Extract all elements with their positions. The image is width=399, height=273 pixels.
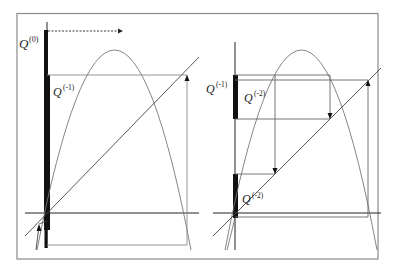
label-q-minus1-left-sup: (-1) <box>63 83 75 92</box>
label-q-minus2-lower-sup: (-2) <box>252 191 264 200</box>
left-parabola-curve <box>37 50 191 250</box>
label-q0-sup: (0) <box>29 35 39 44</box>
right-down-arrow-icon-2 <box>273 168 278 174</box>
left-interval-bar-lower <box>44 75 50 230</box>
left-interval-bar-upper <box>44 30 48 75</box>
left-panel: Q (0) Q (-1) <box>19 22 199 250</box>
label-q-minus2-upper: Q <box>244 91 253 105</box>
label-q0: Q <box>19 36 29 51</box>
label-q-minus2-upper-sup: (-2) <box>254 89 266 98</box>
label-q-minus1-left: Q <box>53 85 62 99</box>
left-up-arrow-icon <box>185 75 190 81</box>
outer-frame <box>17 14 378 260</box>
left-small-up-arrow-icon <box>37 224 42 231</box>
label-q-minus1-right: Q <box>206 82 215 96</box>
right-panel: Q (-1) Q (-2) Q (-2) <box>206 42 381 250</box>
label-q-minus1-right-sup: (-1) <box>216 80 228 89</box>
label-q-minus2-lower: Q <box>242 192 251 206</box>
cobweb-figure: Q (0) Q (-1) Q (-1) Q <box>0 0 399 273</box>
right-interval-bar-upper <box>233 75 238 119</box>
right-down-arrow-icon-1 <box>328 113 333 119</box>
left-diagonal-line <box>25 57 199 236</box>
